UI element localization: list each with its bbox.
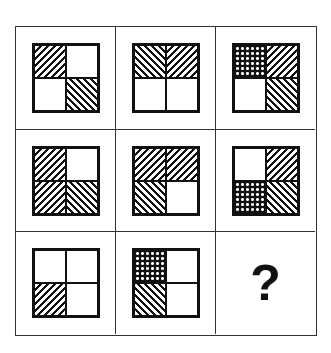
puzzle-grid: ?	[15, 26, 317, 336]
puzzle-cell-r0c1	[116, 27, 216, 130]
quadrant-figure	[132, 43, 200, 113]
quadrant-figure	[232, 43, 300, 113]
quadrant-bl-fwd	[35, 283, 66, 315]
puzzle-cell-r1c2	[216, 130, 315, 232]
quadrant-br-empty	[166, 78, 197, 110]
puzzle-cell-r0c0	[16, 27, 116, 130]
puzzle-cell-r2c0	[16, 232, 116, 334]
quadrant-tl-fwd	[35, 46, 66, 78]
quadrant-tl-empty	[235, 149, 266, 181]
quadrant-figure	[32, 146, 100, 216]
puzzle-cell-r2c2: ?	[216, 232, 315, 334]
quadrant-figure	[32, 248, 100, 318]
quadrant-tr-fwd	[266, 46, 297, 78]
quadrant-tl-cross	[235, 46, 266, 78]
quadrant-tr-fwd	[266, 149, 297, 181]
quadrant-bl-empty	[35, 78, 66, 110]
quadrant-bl-empty	[135, 78, 166, 110]
quadrant-figure	[132, 146, 200, 216]
quadrant-figure	[132, 248, 200, 318]
quadrant-br-back	[266, 181, 297, 213]
quadrant-tr-fwd	[166, 149, 197, 181]
quadrant-bl-back	[135, 283, 166, 315]
quadrant-br-empty	[166, 181, 197, 213]
quadrant-tl-cross	[135, 251, 166, 283]
quadrant-br-empty	[166, 283, 197, 315]
quadrant-tl-fwd	[35, 149, 66, 181]
quadrant-bl-cross	[235, 181, 266, 213]
quadrant-tl-back	[135, 46, 166, 78]
quadrant-figure	[32, 43, 100, 113]
puzzle-cell-r1c0	[16, 130, 116, 232]
quadrant-bl-back	[135, 181, 166, 213]
puzzle-cell-r1c1	[116, 130, 216, 232]
quadrant-br-empty	[66, 283, 97, 315]
quadrant-tr-fwd	[166, 46, 197, 78]
quadrant-tr-empty	[66, 251, 97, 283]
quadrant-tr-empty	[66, 149, 97, 181]
quadrant-tl-empty	[35, 251, 66, 283]
quadrant-figure	[232, 146, 300, 216]
question-mark: ?	[250, 258, 281, 308]
quadrant-br-back	[66, 78, 97, 110]
quadrant-bl-empty	[235, 78, 266, 110]
quadrant-br-back	[66, 181, 97, 213]
quadrant-tr-empty	[166, 251, 197, 283]
quadrant-tl-fwd	[135, 149, 166, 181]
quadrant-tr-empty	[66, 46, 97, 78]
puzzle-cell-r0c2	[216, 27, 315, 130]
quadrant-bl-fwd	[35, 181, 66, 213]
puzzle-cell-r2c1	[116, 232, 216, 334]
quadrant-br-back	[266, 78, 297, 110]
